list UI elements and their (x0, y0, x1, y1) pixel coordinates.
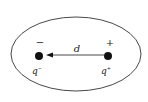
negative-charge-label: q− (32, 65, 42, 76)
positive-sign-label: + (106, 37, 114, 48)
negative-sign-label: − (36, 37, 44, 48)
separation-label: d (74, 43, 80, 54)
arrow-head-icon (46, 53, 53, 58)
positive-charge-label: q+ (101, 65, 111, 76)
positive-charge-dot (104, 52, 112, 60)
gaussian-surface-ellipse (11, 17, 141, 91)
negative-charge-dot (35, 52, 43, 60)
dipole-diagram: − + d q− q+ (0, 0, 148, 102)
